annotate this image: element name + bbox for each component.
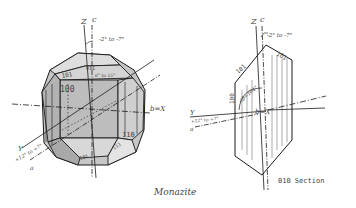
label-a-right: a	[190, 125, 194, 132]
label-z-right: Z	[250, 17, 257, 26]
caption-monazite: Monazite	[153, 187, 196, 197]
label-b-x: b=X	[150, 105, 166, 113]
face-label-100-right: 100	[228, 93, 235, 104]
label-top-angle: -2° to -7°	[99, 36, 124, 42]
label-a: a	[30, 164, 34, 171]
label-b-x-right: b=X	[255, 108, 271, 116]
face-label-100: 100	[60, 85, 75, 94]
monazite-diagram: Z c -2° to -7° b=X Y +12° to +7° a 101 0…	[0, 0, 356, 208]
label-face-angle: 6° to 15°	[95, 73, 115, 78]
label-z: Z	[80, 17, 87, 26]
caption-010-section: 010 Section	[278, 177, 324, 185]
label-y-right: Y	[190, 109, 196, 117]
label-top-angle-right: -2° to -7°	[267, 32, 292, 38]
label-c-right: c	[260, 15, 265, 24]
face-label-110: 110	[122, 131, 135, 139]
face-label-011: 011	[86, 65, 95, 71]
label-c: c	[92, 15, 97, 24]
